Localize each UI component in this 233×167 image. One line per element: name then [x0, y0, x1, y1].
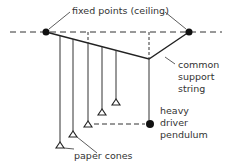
driver-pendulum-label: heavy driver pendulum — [160, 105, 208, 141]
driver-pendulum-bob — [146, 120, 154, 128]
paper-cone-2 — [69, 131, 77, 137]
fixed-point-left — [43, 29, 50, 36]
paper-cone-4 — [98, 109, 106, 115]
paper-cone-1 — [56, 142, 64, 148]
paper-cones-label: paper cones — [74, 150, 133, 162]
support-string-label: common support string — [178, 59, 219, 95]
paper-cone-5 — [112, 99, 120, 105]
paper-cone-3 — [84, 121, 92, 127]
fixed-point-right — [186, 29, 193, 36]
fixed-points-label: fixed points (ceiling) — [72, 5, 169, 17]
support-string — [46, 32, 189, 59]
